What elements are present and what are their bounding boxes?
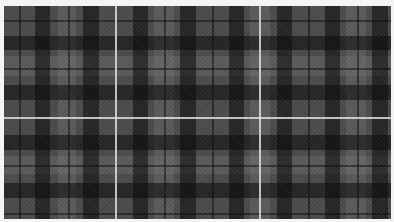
image-frame (0, 0, 394, 222)
tartan-plaid-pattern (4, 6, 391, 219)
weave-texture (4, 6, 391, 219)
